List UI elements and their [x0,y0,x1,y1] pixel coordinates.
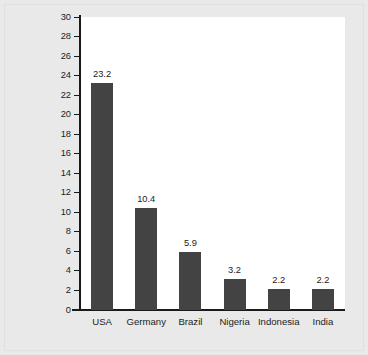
y-axis-tick: 12 [50,187,79,198]
bar-value-label: 5.9 [184,238,197,249]
y-axis-tick: 22 [50,90,79,101]
bar-group[interactable]: 10.4 [124,17,168,310]
chart-page: Acres of Land Required to Support an Ind… [0,0,368,355]
y-axis-tick-label: 30 [61,12,71,23]
bar-value-label: 2.2 [316,275,329,286]
bar-group[interactable]: 5.9 [168,17,212,310]
bar-group[interactable]: 2.2 [257,17,301,310]
bar[interactable] [135,208,157,310]
y-axis-tick-label: 6 [66,246,71,257]
y-axis-tick-label: 0 [66,305,71,316]
y-axis-tick: 16 [50,148,79,159]
y-axis-tick-label: 22 [61,90,71,101]
bar[interactable] [312,289,334,310]
bar-series: 23.210.45.93.22.22.2 [80,17,345,310]
y-axis-tick-label: 2 [66,285,71,296]
y-axis-tick-label: 16 [61,148,71,159]
y-axis-tick: 20 [50,109,79,120]
y-axis-tick: 24 [50,70,79,81]
y-axis-tick: 30 [50,12,79,23]
bar-group[interactable]: 23.2 [80,17,124,310]
bar-value-label: 3.2 [228,265,241,276]
y-axis-tick-label: 14 [61,168,71,179]
y-axis-tick-label: 12 [61,187,71,198]
y-axis-tick-label: 18 [61,129,71,140]
y-axis-tick: 6 [50,246,79,257]
y-axis-tick: 8 [50,226,79,237]
y-axis-tick-label: 20 [61,109,71,120]
y-axis-tick: 10 [50,207,79,218]
y-axis-tick: 4 [50,265,79,276]
y-axis-tick: 28 [50,31,79,42]
bar[interactable] [224,279,246,310]
bar-value-label: 10.4 [137,194,155,205]
y-axis-tick-label: 26 [61,51,71,62]
y-axis-tick-label: 10 [61,207,71,218]
bar-group[interactable]: 3.2 [213,17,257,310]
y-axis-tick: 18 [50,129,79,140]
bar-group[interactable]: 2.2 [301,17,345,310]
bar-value-label: 2.2 [272,275,285,286]
bar-value-label: 23.2 [93,69,111,80]
y-axis-tick-label: 4 [66,265,71,276]
y-axis-tick-label: 24 [61,70,71,81]
x-axis-label: India [293,315,353,329]
y-axis-tick: 14 [50,168,79,179]
y-axis-tick-label: 8 [66,226,71,237]
bar[interactable] [268,289,290,310]
x-axis-labels: USAGermanyBrazilNigeriaIndonesiaIndia [80,315,345,331]
y-axis-tick: 26 [50,51,79,62]
y-axis-tick: 2 [50,285,79,296]
bar[interactable] [179,252,201,310]
bar[interactable] [91,83,113,310]
y-axis-tick-label: 28 [61,31,71,42]
